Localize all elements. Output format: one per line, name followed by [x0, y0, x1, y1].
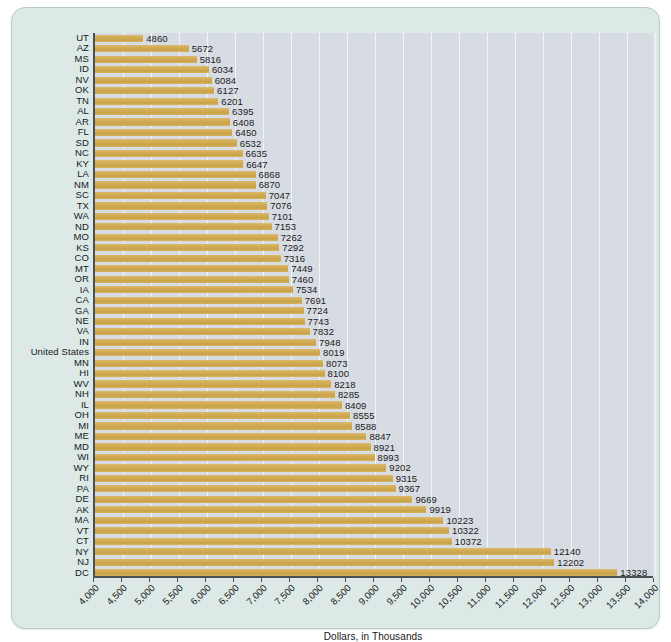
category-label: CT	[76, 536, 89, 546]
bar[interactable]	[95, 496, 412, 503]
bar[interactable]	[95, 454, 375, 461]
bar-row: 12140	[95, 547, 653, 557]
bar[interactable]	[95, 77, 212, 84]
x-tick-label: 12,000	[520, 582, 549, 611]
bar-row: 7743	[95, 316, 653, 326]
bar[interactable]	[95, 464, 386, 471]
bar[interactable]	[95, 318, 305, 325]
bar[interactable]	[95, 328, 310, 335]
bar[interactable]	[95, 527, 449, 534]
bar[interactable]	[95, 276, 289, 283]
bar-row: 7832	[95, 326, 653, 336]
bar-row: 8921	[95, 442, 653, 452]
bar[interactable]	[95, 35, 143, 42]
bar[interactable]	[95, 339, 316, 346]
bar-value-label: 7292	[282, 242, 304, 253]
bar-value-label: 8218	[334, 379, 356, 390]
bar-row: 4860	[95, 33, 653, 43]
bar[interactable]	[95, 213, 269, 220]
bar[interactable]	[95, 349, 320, 356]
bar[interactable]	[95, 150, 243, 157]
bar[interactable]	[95, 98, 218, 105]
bar-value-label: 7832	[313, 326, 335, 337]
bar[interactable]	[95, 485, 396, 492]
bar-value-label: 7101	[272, 211, 294, 222]
bar-row: 8555	[95, 410, 653, 420]
bar[interactable]	[95, 569, 617, 576]
bar-value-label: 13328	[620, 567, 647, 578]
bar-row: 8409	[95, 400, 653, 410]
x-tick-label: 5,500	[160, 582, 185, 607]
x-tick-label: 6,500	[216, 582, 241, 607]
x-tick-label: 4,000	[76, 582, 101, 607]
bar[interactable]	[95, 422, 352, 429]
bar[interactable]	[95, 548, 551, 555]
bar[interactable]	[95, 118, 230, 125]
bar[interactable]	[95, 307, 304, 314]
bar-value-label: 7743	[308, 316, 330, 327]
bar[interactable]	[95, 192, 266, 199]
bar[interactable]	[95, 255, 281, 262]
bar-value-label: 7047	[269, 190, 291, 201]
bar-value-label: 8588	[355, 421, 377, 432]
x-tick-label: 8,000	[300, 582, 325, 607]
bar[interactable]	[95, 129, 232, 136]
bar[interactable]	[95, 559, 554, 566]
bar[interactable]	[95, 56, 197, 63]
bar[interactable]	[95, 160, 243, 167]
bar[interactable]	[95, 380, 331, 387]
bar-row: 7101	[95, 211, 653, 221]
bar[interactable]	[95, 139, 237, 146]
bar[interactable]	[95, 506, 426, 513]
bar[interactable]	[95, 202, 267, 209]
bar[interactable]	[95, 244, 279, 251]
bar[interactable]	[95, 45, 189, 52]
bar[interactable]	[95, 475, 393, 482]
bar[interactable]	[95, 181, 256, 188]
bar-row: 8588	[95, 421, 653, 431]
x-tick-mark	[569, 578, 570, 582]
bar[interactable]	[95, 234, 278, 241]
bar-row: 8019	[95, 347, 653, 357]
bar[interactable]	[95, 401, 342, 408]
bar[interactable]	[95, 286, 293, 293]
bar[interactable]	[95, 297, 302, 304]
bar-value-label: 8555	[353, 410, 375, 421]
bar-row: 8218	[95, 379, 653, 389]
x-tick-mark	[429, 578, 430, 582]
bar[interactable]	[95, 517, 443, 524]
bar[interactable]	[95, 538, 452, 545]
bar[interactable]	[95, 171, 256, 178]
x-tick-label: 11,000	[465, 582, 493, 610]
bar-value-label: 5672	[192, 43, 214, 54]
x-tick-label: 12,500	[548, 582, 577, 611]
bar-value-label: 8847	[369, 431, 391, 442]
bar[interactable]	[95, 360, 323, 367]
bar[interactable]	[95, 370, 325, 377]
x-tick-label: 13,500	[604, 582, 633, 611]
bar[interactable]	[95, 87, 214, 94]
x-tick-label: 13,000	[576, 582, 605, 611]
bar-value-label: 7262	[281, 232, 303, 243]
bar[interactable]	[95, 443, 371, 450]
x-tick-label: 4,500	[104, 582, 129, 607]
bar-row: 8847	[95, 431, 653, 441]
bar[interactable]	[95, 433, 366, 440]
bar[interactable]	[95, 412, 350, 419]
bar[interactable]	[95, 223, 272, 230]
bar[interactable]	[95, 265, 288, 272]
bar-value-label: 12140	[554, 546, 581, 557]
bar-row: 10223	[95, 515, 653, 525]
bar-value-label: 10322	[452, 525, 479, 536]
bar-row: 12202	[95, 557, 653, 567]
bar-row: 6870	[95, 180, 653, 190]
x-tick-mark	[653, 578, 654, 582]
category-label: DC	[75, 568, 89, 578]
bar[interactable]	[95, 66, 209, 73]
bar[interactable]	[95, 108, 229, 115]
bar[interactable]	[95, 391, 335, 398]
plot-area: 4860567258166034608461276201639564086450…	[93, 33, 653, 578]
bar-value-label: 6395	[232, 106, 254, 117]
bar-row: 8993	[95, 452, 653, 462]
bar-value-label: 6201	[221, 96, 243, 107]
